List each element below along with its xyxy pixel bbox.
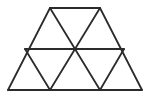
segment-internal-slant-center-left xyxy=(50,49,75,90)
segment-internal-slant-upper-left xyxy=(50,8,75,49)
segment-internal-slant-right-down xyxy=(100,49,124,90)
segment-internal-slant-upper-right xyxy=(75,8,100,49)
segment-internal-slant-center-right xyxy=(75,49,100,90)
triangle-subdivision-figure: Trapezoid subdivided into nine congruent… xyxy=(0,0,149,102)
segment-internal-slant-left-up xyxy=(25,49,50,90)
internal-segments xyxy=(25,8,124,90)
figure-canvas: Trapezoid subdivided into nine congruent… xyxy=(0,0,149,102)
